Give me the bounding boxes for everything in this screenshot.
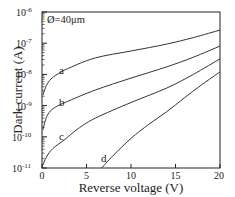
curve-b <box>43 46 220 130</box>
x-tick-label: 20 <box>214 170 224 181</box>
x-tick-label: 0 <box>40 170 45 181</box>
y-tick-label: 10-6 <box>16 6 32 18</box>
curve-label-a: a <box>59 64 64 76</box>
x-axis-title: Reverse voltage (V) <box>79 180 184 195</box>
curve-label-d: d <box>101 152 107 164</box>
y-tick-label: 10-11 <box>12 162 32 174</box>
y-axis-title: Dark current (A) <box>10 46 25 133</box>
dark-current-chart: 10-6 10-7 10-8 10-9 10-10 10-11 0 5 10 1… <box>0 0 235 197</box>
plot-frame <box>42 12 220 168</box>
diameter-annotation: Ø=40μm <box>47 14 85 25</box>
curves <box>42 30 220 168</box>
curve-label-c: c <box>59 130 64 142</box>
x-axis-ticks <box>42 164 220 168</box>
curve-c <box>42 59 220 167</box>
curve-d <box>102 72 220 168</box>
curve-a <box>43 30 220 95</box>
curve-label-b: b <box>59 96 65 108</box>
